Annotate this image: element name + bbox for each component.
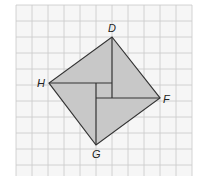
- label-g: G: [92, 148, 101, 160]
- label-d: D: [108, 22, 116, 34]
- label-h: H: [37, 77, 45, 89]
- pinwheel-square-diagram: D F G H: [0, 0, 208, 188]
